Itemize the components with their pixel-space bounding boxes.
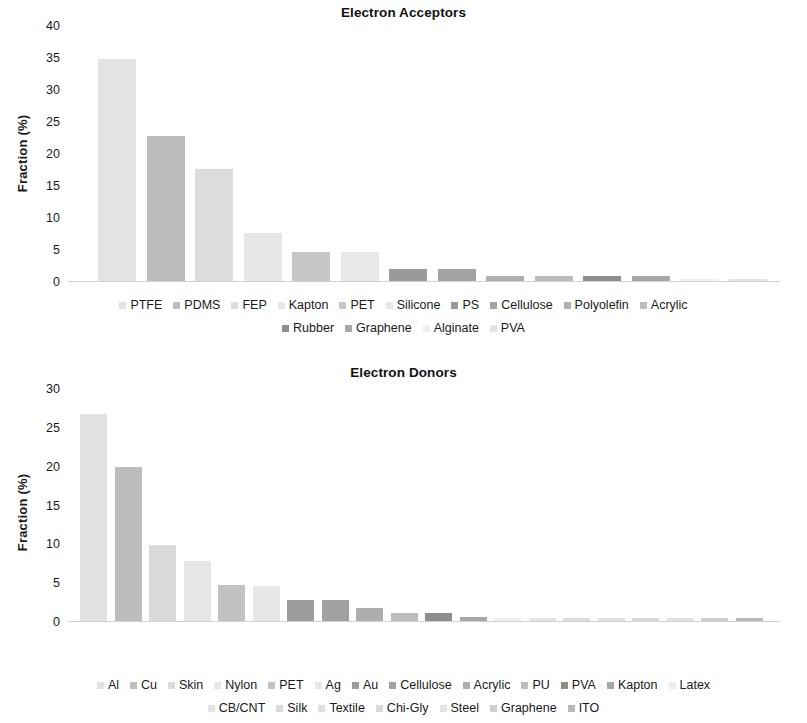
legend-swatch-icon bbox=[268, 682, 275, 689]
y-tick-donors: 0 bbox=[53, 615, 60, 629]
legend-item[interactable]: Silicone bbox=[386, 297, 441, 314]
legend-item[interactable]: PU bbox=[521, 677, 549, 694]
chart-electron-acceptors: Electron Acceptors Fraction (%) 05101520… bbox=[0, 0, 807, 360]
bar-acceptors bbox=[292, 252, 330, 282]
legend-swatch-icon bbox=[376, 705, 383, 712]
legend-item[interactable]: Acrylic bbox=[640, 297, 688, 314]
legend-label: Silicone bbox=[397, 297, 441, 314]
legend-label: Textile bbox=[329, 700, 364, 717]
legend-swatch-icon bbox=[561, 682, 568, 689]
legend-swatch-icon bbox=[490, 705, 497, 712]
y-tick-acceptors: 10 bbox=[46, 211, 60, 225]
legend-label: Nylon bbox=[225, 677, 257, 694]
legend-label: Cu bbox=[141, 677, 157, 694]
legend-item[interactable]: Ag bbox=[315, 677, 341, 694]
legend-item[interactable]: Graphene bbox=[490, 700, 557, 717]
chart-title-donors: Electron Donors bbox=[0, 365, 807, 380]
legend-item[interactable]: Acrylic bbox=[463, 677, 511, 694]
legend-label: Kapton bbox=[618, 677, 658, 694]
legend-item[interactable]: FEP bbox=[231, 297, 266, 314]
legend-swatch-icon bbox=[490, 302, 497, 309]
legend-item[interactable]: ITO bbox=[568, 700, 600, 717]
legend-item[interactable]: Au bbox=[352, 677, 378, 694]
legend-item[interactable]: Cellulose bbox=[389, 677, 451, 694]
legend-label: Ag bbox=[326, 677, 341, 694]
legend-item[interactable]: Cellulose bbox=[490, 297, 552, 314]
legend-swatch-icon bbox=[130, 682, 137, 689]
legend-donors-row-1: AlCuSkinNylonPETAgAuCelluloseAcrylicPUPV… bbox=[0, 677, 807, 694]
legend-item[interactable]: Steel bbox=[440, 700, 480, 717]
legend-swatch-icon bbox=[214, 682, 221, 689]
legend-label: Latex bbox=[680, 677, 711, 694]
legend-item[interactable]: Polyolefin bbox=[564, 297, 629, 314]
legend-item[interactable]: Alginate bbox=[423, 320, 479, 337]
legend-label: Alginate bbox=[434, 320, 479, 337]
y-tick-acceptors: 15 bbox=[46, 179, 60, 193]
legend-item[interactable]: PS bbox=[451, 297, 479, 314]
legend-item[interactable]: Al bbox=[97, 677, 119, 694]
legend-item[interactable]: PDMS bbox=[173, 297, 220, 314]
bar-group-donors bbox=[68, 389, 780, 622]
bar-acceptors bbox=[341, 252, 379, 282]
legend-label: Steel bbox=[451, 700, 480, 717]
y-tick-donors: 20 bbox=[46, 460, 60, 474]
legend-swatch-icon bbox=[564, 302, 571, 309]
legend-label: Silk bbox=[287, 700, 307, 717]
legend-label: PVA bbox=[501, 320, 525, 337]
legend-swatch-icon bbox=[318, 705, 325, 712]
legend-swatch-icon bbox=[345, 325, 352, 332]
legend-label: PU bbox=[532, 677, 549, 694]
y-tick-acceptors: 25 bbox=[46, 115, 60, 129]
bar-donors bbox=[115, 467, 142, 622]
legend-item[interactable]: CB/CNT bbox=[208, 700, 266, 717]
legend-label: PDMS bbox=[184, 297, 220, 314]
legend-item[interactable]: Rubber bbox=[282, 320, 334, 337]
y-tick-acceptors: 30 bbox=[46, 83, 60, 97]
legend-item[interactable]: PVA bbox=[490, 320, 525, 337]
y-tick-acceptors: 40 bbox=[46, 19, 60, 33]
legend-donors-row-2: CB/CNTSilkTextileChi-GlySteelGrapheneITO bbox=[0, 700, 807, 717]
legend-item[interactable]: Chi-Gly bbox=[376, 700, 429, 717]
legend-label: PET bbox=[350, 297, 374, 314]
y-tick-donors: 15 bbox=[46, 499, 60, 513]
legend-item[interactable]: Kapton bbox=[607, 677, 658, 694]
x-axis-line-acceptors bbox=[68, 281, 780, 282]
legend-item[interactable]: Cu bbox=[130, 677, 157, 694]
figure-page: Electron Acceptors Fraction (%) 05101520… bbox=[0, 0, 807, 723]
bar-acceptors bbox=[98, 59, 136, 282]
legend-item[interactable]: PVA bbox=[561, 677, 596, 694]
y-tick-donors: 5 bbox=[53, 576, 60, 590]
legend-item[interactable]: Graphene bbox=[345, 320, 412, 337]
legend-label: Chi-Gly bbox=[387, 700, 429, 717]
legend-swatch-icon bbox=[440, 705, 447, 712]
legend-acceptors-row-2: RubberGrapheneAlginatePVA bbox=[0, 320, 807, 337]
legend-item[interactable]: PET bbox=[339, 297, 374, 314]
legend-item[interactable]: Silk bbox=[276, 700, 307, 717]
legend-item[interactable]: Textile bbox=[318, 700, 364, 717]
legend-swatch-icon bbox=[521, 682, 528, 689]
legend-label: FEP bbox=[242, 297, 266, 314]
bar-donors bbox=[322, 600, 349, 622]
bar-acceptors bbox=[195, 169, 233, 282]
legend-swatch-icon bbox=[282, 325, 289, 332]
y-tick-acceptors: 20 bbox=[46, 147, 60, 161]
legend-item[interactable]: PET bbox=[268, 677, 303, 694]
legend-item[interactable]: PTFE bbox=[119, 297, 162, 314]
bar-donors bbox=[80, 414, 107, 622]
y-tick-donors: 10 bbox=[46, 537, 60, 551]
legend-swatch-icon bbox=[568, 705, 575, 712]
legend-item[interactable]: Kapton bbox=[278, 297, 329, 314]
legend-item[interactable]: Nylon bbox=[214, 677, 257, 694]
legend-label: Al bbox=[108, 677, 119, 694]
chart-electron-donors: Electron Donors Fraction (%) 05101520253… bbox=[0, 360, 807, 723]
bar-donors bbox=[218, 585, 245, 622]
legend-swatch-icon bbox=[423, 325, 430, 332]
legend-swatch-icon bbox=[640, 302, 647, 309]
legend-swatch-icon bbox=[97, 682, 104, 689]
bar-donors bbox=[356, 608, 383, 622]
bar-acceptors bbox=[147, 136, 185, 282]
legend-item[interactable]: Latex bbox=[669, 677, 711, 694]
legend-label: CB/CNT bbox=[219, 700, 266, 717]
legend-item[interactable]: Skin bbox=[168, 677, 203, 694]
legend-swatch-icon bbox=[463, 682, 470, 689]
